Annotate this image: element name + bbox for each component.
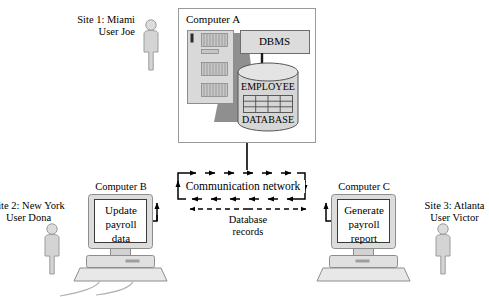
server-tower-icon [188, 31, 234, 104]
person-icon-site-3 [436, 224, 450, 274]
computer-c-screen-text: Generate payroll report [338, 203, 390, 245]
computer-b-screen-text: Update payroll data [95, 203, 147, 245]
site-3-label: Site 3: Atlanta User Victor [402, 200, 489, 224]
person-icon-site-2 [45, 224, 59, 274]
dbms-label: DBMS [240, 35, 309, 47]
computer-c-title: Computer C [323, 181, 405, 193]
communication-network-label: Communication network [181, 180, 305, 193]
site-2-label: Site 2: New York User Dona [0, 200, 81, 224]
employee-label: EMPLOYEE [233, 81, 303, 92]
site-1-label: Site 1: Miami User Joe [30, 14, 135, 38]
computer-a-title: Computer A [186, 13, 276, 25]
database-records-label: Database records [213, 214, 283, 239]
computer-b-title: Computer B [80, 181, 162, 193]
person-icon-site-1 [144, 20, 158, 70]
database-label: DATABASE [233, 114, 303, 125]
